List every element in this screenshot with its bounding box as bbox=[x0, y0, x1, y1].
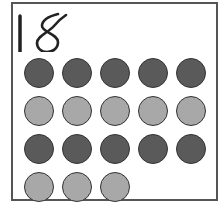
dark-dot-icon bbox=[100, 134, 130, 164]
light-dot-icon bbox=[62, 172, 92, 202]
dark-dot-icon bbox=[62, 134, 92, 164]
light-dot-icon bbox=[100, 172, 130, 202]
light-dot-icon bbox=[62, 96, 92, 126]
numeral-18-icon bbox=[14, 2, 74, 52]
dark-dot-icon bbox=[24, 134, 54, 164]
light-dot-icon bbox=[24, 96, 54, 126]
dark-dot-icon bbox=[176, 134, 206, 164]
dark-dot-icon bbox=[24, 58, 54, 88]
light-dot-icon bbox=[100, 96, 130, 126]
light-dot-icon bbox=[138, 96, 168, 126]
dark-dot-icon bbox=[62, 58, 92, 88]
number-label: 18 bbox=[14, 2, 74, 52]
dark-dot-icon bbox=[138, 134, 168, 164]
dark-dot-icon bbox=[138, 58, 168, 88]
dark-dot-icon bbox=[100, 58, 130, 88]
light-dot-icon bbox=[24, 172, 54, 202]
dark-dot-icon bbox=[176, 58, 206, 88]
light-dot-icon bbox=[176, 96, 206, 126]
